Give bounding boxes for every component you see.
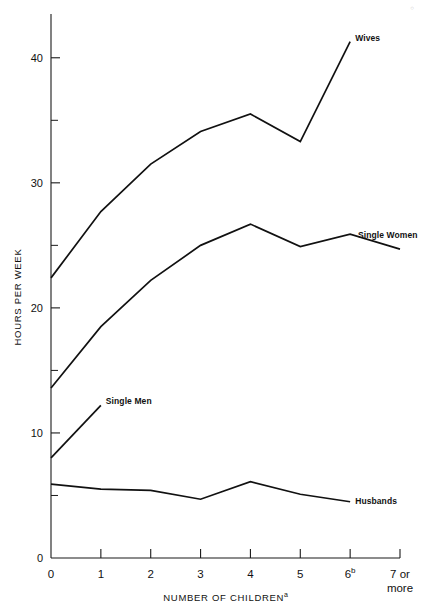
- series-line-wives: [51, 42, 350, 278]
- series-labels-group: WivesSingle WomenSingle MenHusbands: [106, 33, 418, 506]
- x-tick-label: 1: [98, 568, 104, 580]
- y-axis-tick-labels: 010203040: [31, 52, 43, 564]
- series-label-single-women: Single Women: [358, 230, 418, 240]
- y-tick-label: 0: [37, 552, 43, 564]
- series-line-husbands: [51, 482, 350, 502]
- x-tick-label-line2: more: [387, 582, 413, 594]
- x-tick-label: 4: [247, 568, 254, 580]
- series-line-single-men: [51, 405, 101, 458]
- line-chart-svg: 010203040 0123456bmore7 or WivesSingle W…: [0, 0, 423, 609]
- chart-figure: 010203040 0123456bmore7 or WivesSingle W…: [0, 0, 423, 609]
- x-tick-label: 7 or: [390, 568, 410, 580]
- x-axis-title-superscript: a: [284, 591, 289, 598]
- axes-group: [51, 14, 400, 558]
- x-tick-label: 3: [197, 568, 203, 580]
- series-label-single-men: Single Men: [106, 396, 152, 406]
- y-tick-label: 30: [31, 177, 43, 189]
- y-tick-label: 20: [31, 302, 43, 314]
- x-axis-title: NUMBER OF CHILDRENa: [163, 591, 288, 603]
- x-axis-ticks: [101, 549, 400, 558]
- x-tick-label: 2: [148, 568, 154, 580]
- corner-mark: ○: [410, 5, 414, 11]
- x-tick-label: 5: [297, 568, 303, 580]
- y-tick-label: 40: [31, 52, 43, 64]
- y-axis-title: HOURS PER WEEK: [12, 249, 23, 346]
- x-axis-tick-labels: 0123456bmore7 or: [48, 566, 413, 594]
- x-tick-label: 6b: [345, 566, 356, 580]
- x-tick-label: 0: [48, 568, 54, 580]
- series-label-husbands: Husbands: [355, 496, 397, 506]
- series-lines-group: [51, 42, 400, 502]
- y-tick-label: 10: [31, 427, 43, 439]
- series-label-wives: Wives: [355, 33, 380, 43]
- x-axis-title-text: NUMBER OF CHILDREN: [163, 592, 284, 603]
- series-line-single-women: [51, 224, 400, 388]
